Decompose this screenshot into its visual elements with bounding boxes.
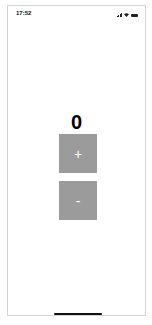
phone-screen: 17:52 0 + -: [7, 5, 146, 316]
plus-icon: +: [74, 146, 82, 162]
signal-icon: [117, 13, 123, 17]
increment-button[interactable]: +: [59, 134, 97, 173]
status-time: 17:52: [16, 10, 31, 16]
battery-icon: [131, 14, 138, 17]
decrement-button[interactable]: -: [59, 181, 97, 220]
home-indicator[interactable]: [54, 313, 102, 315]
counter-value: 0: [8, 111, 145, 133]
status-bar: 17:52: [8, 6, 145, 22]
status-icons: [117, 12, 139, 17]
minus-icon: -: [76, 193, 81, 209]
wifi-icon: [124, 13, 129, 17]
